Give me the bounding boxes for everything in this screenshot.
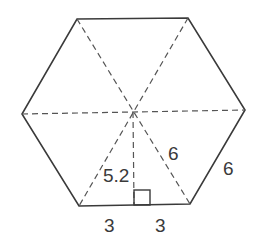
hexagon-diagram: 5.2 6 6 3 3 [0,0,256,245]
half-base-right-label: 3 [155,215,166,236]
apothem-label: 5.2 [103,165,129,186]
side-label: 6 [223,158,234,179]
dashed-diagonals [22,18,245,206]
radius-label: 6 [168,143,179,164]
half-base-left-label: 3 [104,215,115,236]
right-angle-marker [134,190,150,205]
